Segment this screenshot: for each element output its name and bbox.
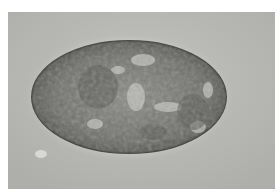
egg-illustration	[8, 12, 275, 189]
debris-particle	[35, 150, 47, 158]
micrograph-photo	[8, 12, 275, 189]
